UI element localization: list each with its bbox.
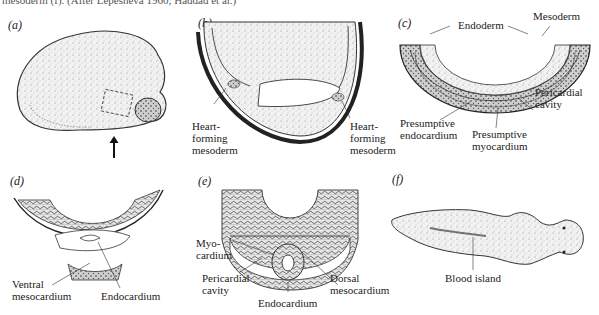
label-pericardial-cavity-e: Pericardial cavity xyxy=(202,272,250,296)
panel-a: (a) xyxy=(0,0,195,165)
label-blood-island: Blood island xyxy=(445,272,501,284)
label-endocardium-e: Endocardium xyxy=(258,297,317,309)
label-heart-forming-mesoderm-left: Heart- forming mesoderm xyxy=(192,120,238,156)
label-pericardial-cavity: Pericardial cavity xyxy=(535,86,583,110)
panel-b: (b) Heart- forming mesoderm Heart- formi… xyxy=(190,0,395,160)
label-heart-forming-mesoderm-right: Heart- forming mesoderm xyxy=(350,120,396,156)
label-presumptive-myocardium: Presumptive myocardium xyxy=(472,128,528,152)
panel-c: (c) Endoderm Mesoderm Pericardial cavity… xyxy=(390,0,599,160)
panel-f: (f) Blood island xyxy=(390,160,599,315)
label-endocardium-d: Endocardium xyxy=(101,290,160,302)
embryo-whole-illustration xyxy=(0,0,195,165)
embryo-blood-island-illustration xyxy=(390,160,599,315)
panel-e: (e) Myo- cardium Pericardial cavity Endo… xyxy=(190,160,395,315)
label-presumptive-endocardium: Presumptive endocardium xyxy=(400,117,457,141)
label-mesoderm: Mesoderm xyxy=(533,10,580,22)
panel-d: (d) Ventral mesocardium Endocardium xyxy=(0,160,195,315)
label-endoderm: Endoderm xyxy=(458,19,504,31)
label-myocardium: Myo- cardium xyxy=(196,237,232,261)
label-dorsal-mesocardium: Dorsal mesocardium xyxy=(330,272,389,296)
label-ventral-mesocardium: Ventral mesocardium xyxy=(12,278,71,302)
arrow-up-icon xyxy=(109,136,119,158)
